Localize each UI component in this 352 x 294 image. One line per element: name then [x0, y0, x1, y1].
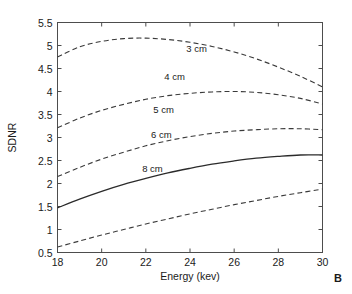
- panel-label: B: [334, 272, 342, 284]
- x-tick-label-28: 28: [272, 256, 284, 268]
- y-tick-label-3.5: 3.5: [38, 109, 53, 121]
- curve-8-cm: [58, 189, 323, 247]
- x-axis-title: Energy (kev): [160, 270, 220, 282]
- y-tick-label-1: 1: [47, 224, 53, 236]
- y-axis-title: SDNR: [6, 122, 18, 152]
- curve-inline-labels: 3 cm4 cm5 cm6 cm8 cm: [142, 43, 207, 174]
- y-tick-label-2.5: 2.5: [38, 155, 53, 167]
- x-tick-label-18: 18: [52, 256, 64, 268]
- curve-5-cm: [58, 129, 323, 177]
- y-axis-tick-labels: 0.511.522.533.544.555.5: [38, 17, 53, 259]
- x-tick-label-20: 20: [96, 256, 108, 268]
- x-axis-tick-marks: [58, 23, 323, 253]
- curve-4-cm: [58, 91, 323, 127]
- sdnr-vs-energy-line-chart: 18202224262830 0.511.522.533.544.555.5 3…: [0, 0, 352, 294]
- y-tick-label-2: 2: [47, 178, 53, 190]
- y-tick-label-0.5: 0.5: [38, 247, 53, 259]
- curve-label-8-cm: 8 cm: [142, 163, 163, 174]
- curve-label-6-cm: 6 cm: [151, 129, 172, 140]
- y-tick-label-5: 5: [47, 40, 53, 52]
- plot-axes-frame: [58, 23, 323, 253]
- curve-label-3-cm: 3 cm: [186, 43, 207, 54]
- x-tick-label-24: 24: [184, 256, 196, 268]
- y-tick-label-3: 3: [47, 132, 53, 144]
- x-axis-tick-labels: 18202224262830: [52, 256, 329, 268]
- x-tick-label-22: 22: [140, 256, 152, 268]
- plot-area-border: [58, 23, 323, 253]
- y-tick-label-4: 4: [47, 86, 53, 98]
- x-tick-label-26: 26: [228, 256, 240, 268]
- figure-panel-b: 18202224262830 0.511.522.533.544.555.5 3…: [0, 0, 352, 294]
- curve-label-5-cm: 5 cm: [153, 104, 174, 115]
- y-tick-label-4.5: 4.5: [38, 63, 53, 75]
- curve-6-cm: [58, 155, 323, 208]
- x-tick-label-30: 30: [317, 256, 329, 268]
- y-tick-label-1.5: 1.5: [38, 201, 53, 213]
- curve-label-4-cm: 4 cm: [164, 71, 185, 82]
- y-tick-label-5.5: 5.5: [38, 17, 53, 29]
- data-curves: [58, 38, 323, 247]
- y-axis-tick-marks: [58, 23, 323, 253]
